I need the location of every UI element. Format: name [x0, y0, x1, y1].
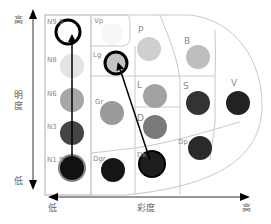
circle-lg: [105, 52, 127, 74]
label-p: P: [138, 25, 144, 35]
circle-b: [186, 45, 210, 69]
circle-v: [226, 91, 250, 115]
label-n9-5: N9.5: [47, 18, 63, 26]
label-n8: N8: [47, 56, 57, 64]
lightness-axis-label-2: 度: [14, 100, 23, 111]
label-n6: N6: [47, 90, 57, 98]
circle-p: [137, 37, 161, 61]
label-s: S: [183, 81, 189, 91]
label-n3: N3: [47, 123, 57, 131]
label-l: L: [137, 80, 142, 90]
saturation-high-label: 高: [242, 202, 251, 213]
label-v: V: [231, 78, 238, 88]
circle-d: [143, 115, 167, 139]
lightness-low-label: 低: [14, 175, 23, 186]
lightness-high-label: 高: [14, 14, 23, 25]
circle-dp: [188, 136, 212, 160]
label-gr: Gr: [95, 98, 103, 106]
tone-diagram: N9.5 N8 N6 N3 N1.5 Vp Lg Gr Dgr P L D Dk…: [0, 0, 271, 224]
label-dgr: Dgr: [93, 155, 106, 163]
circle-gr: [100, 101, 124, 125]
label-lg: Lg: [93, 51, 101, 59]
circle-s: [186, 91, 210, 115]
saturation-low-label: 低: [48, 202, 57, 213]
lightness-axis-label-1: 明: [14, 90, 23, 100]
circle-vp: [101, 23, 123, 45]
label-n1-5: N1.5: [47, 156, 63, 164]
saturation-axis-right-arrow-icon: [240, 193, 250, 201]
label-vp: Vp: [94, 17, 104, 25]
circle-l: [143, 84, 167, 108]
lightness-axis-down-arrow-icon: [29, 180, 37, 190]
label-b: B: [184, 36, 190, 46]
lightness-axis-up-arrow-icon: [29, 9, 37, 19]
saturation-axis-label: 彩度: [137, 202, 155, 213]
label-dk: Dk: [137, 151, 147, 159]
label-dp: Dp: [178, 138, 188, 146]
